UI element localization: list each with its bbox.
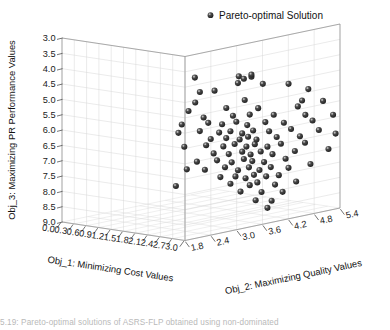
scatter-point bbox=[293, 179, 299, 185]
scatter-point bbox=[320, 98, 326, 104]
scatter-point bbox=[237, 189, 243, 195]
scatter-point bbox=[262, 119, 268, 125]
scatter-point bbox=[184, 166, 190, 172]
scatter-point bbox=[208, 136, 214, 142]
scatter-point bbox=[292, 148, 298, 154]
scatter-point bbox=[274, 134, 280, 140]
scatter-point bbox=[266, 128, 272, 134]
scatter-point bbox=[241, 76, 247, 82]
scatter-point bbox=[227, 181, 233, 187]
svg-text:8.0: 8.0 bbox=[43, 187, 56, 197]
scatter-point bbox=[269, 198, 275, 204]
scatter-point bbox=[276, 172, 282, 178]
scatter-point bbox=[285, 81, 291, 87]
scatter-point bbox=[239, 130, 245, 136]
scatter-point bbox=[247, 112, 253, 118]
scatter-point bbox=[233, 119, 239, 125]
scatter-point bbox=[214, 157, 220, 163]
scatter-point bbox=[217, 174, 223, 180]
scatter-point bbox=[309, 117, 315, 123]
scatter-point bbox=[220, 143, 226, 149]
scatter-point bbox=[226, 151, 232, 157]
scatter-point bbox=[247, 182, 253, 188]
scatter-point bbox=[211, 88, 217, 94]
scatter-point bbox=[258, 148, 264, 154]
scatter-point bbox=[175, 130, 181, 136]
scatter-point bbox=[223, 135, 229, 141]
scatter-point bbox=[192, 99, 198, 105]
svg-text:3.0: 3.0 bbox=[164, 241, 178, 253]
svg-text:2.4: 2.4 bbox=[216, 235, 231, 247]
scatter-point bbox=[271, 112, 277, 118]
svg-text:4.2: 4.2 bbox=[293, 219, 308, 231]
scatter-point bbox=[243, 144, 249, 150]
svg-text:7.5: 7.5 bbox=[43, 171, 56, 181]
svg-text:5.5: 5.5 bbox=[43, 110, 56, 120]
svg-text:6.0: 6.0 bbox=[43, 125, 56, 135]
scatter-point bbox=[264, 144, 270, 150]
scatter-point bbox=[302, 112, 308, 118]
scatter-point bbox=[260, 81, 266, 87]
scatter-point bbox=[243, 175, 249, 181]
scatter-point bbox=[281, 120, 287, 126]
legend-marker-icon bbox=[208, 12, 214, 18]
figure-caption: 5.19: Pareto-optimal solutions of ASRS-F… bbox=[0, 318, 390, 330]
scatter-point bbox=[251, 172, 257, 178]
svg-text:4.0: 4.0 bbox=[43, 64, 56, 74]
scatter-point bbox=[272, 182, 278, 188]
scatter-point bbox=[261, 159, 267, 165]
svg-text:4.5: 4.5 bbox=[43, 79, 56, 89]
scatter-point bbox=[249, 158, 255, 164]
scatter-point bbox=[288, 126, 294, 132]
svg-text:3.0: 3.0 bbox=[43, 33, 56, 43]
scatter-point bbox=[219, 121, 225, 127]
svg-text:5.0: 5.0 bbox=[43, 95, 56, 105]
y-axis-title: Obj_2: Maximizing Quality Values bbox=[224, 257, 363, 296]
scatter-point bbox=[173, 183, 179, 189]
scatter-point bbox=[237, 136, 243, 142]
scatter-point bbox=[307, 161, 313, 167]
svg-text:8.5: 8.5 bbox=[43, 202, 56, 212]
scatter-point bbox=[244, 122, 250, 128]
legend[interactable]: Pareto-optimal Solution bbox=[208, 10, 323, 21]
scatter-point bbox=[248, 72, 254, 78]
scatter-point bbox=[264, 205, 270, 211]
scatter-point bbox=[278, 141, 284, 147]
scatter-point bbox=[268, 164, 274, 170]
scatter-point bbox=[258, 189, 264, 195]
scatter-point bbox=[325, 146, 331, 152]
legend-label: Pareto-optimal Solution bbox=[219, 10, 323, 21]
scatter-point bbox=[255, 105, 261, 111]
svg-text:4.8: 4.8 bbox=[319, 214, 334, 226]
figure-3d-scatter-plot: 3.03.54.04.55.05.56.06.57.07.58.08.59.00… bbox=[0, 0, 390, 330]
scatter-point bbox=[202, 167, 208, 173]
scatter-point bbox=[253, 197, 259, 203]
scatter-point bbox=[299, 98, 305, 104]
svg-text:1.8: 1.8 bbox=[190, 241, 205, 253]
z-axis-title: Obj_3: Maximizing PR Performance Values bbox=[6, 40, 17, 220]
x-axis-title: Obj_1: Minimizing Cost Values bbox=[47, 254, 174, 284]
scatter-point bbox=[254, 179, 260, 185]
legend-entry[interactable]: Pareto-optimal Solution bbox=[208, 10, 323, 21]
scatter-point bbox=[192, 75, 198, 81]
scatter-point bbox=[241, 156, 247, 162]
scatter-point bbox=[232, 141, 238, 147]
scatter-point bbox=[227, 128, 233, 134]
scatter-point bbox=[222, 164, 228, 170]
scatter-point bbox=[235, 167, 241, 173]
scatter-point bbox=[250, 127, 256, 133]
scatter-point bbox=[197, 89, 203, 95]
scatter-point bbox=[230, 113, 236, 119]
scatter-point bbox=[316, 127, 322, 133]
svg-text:3.5: 3.5 bbox=[43, 49, 56, 59]
svg-text:3.6: 3.6 bbox=[267, 224, 282, 236]
svg-text:3.0: 3.0 bbox=[241, 230, 256, 242]
scatter-point bbox=[216, 130, 222, 136]
scatter-point bbox=[302, 140, 308, 146]
svg-text:5.4: 5.4 bbox=[345, 208, 360, 220]
scatter-point bbox=[223, 105, 229, 111]
scatter-point bbox=[239, 149, 245, 155]
plot-canvas: 3.03.54.04.55.05.56.06.57.07.58.08.59.00… bbox=[0, 0, 390, 330]
scatter-point bbox=[179, 121, 185, 127]
scatter-point bbox=[194, 159, 200, 165]
